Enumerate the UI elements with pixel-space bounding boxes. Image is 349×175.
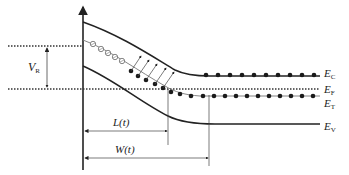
lt-label: L(t) [113,117,130,128]
empty-traps [90,41,124,63]
emission-arrows [131,56,174,88]
et-label-sub: T [331,103,335,111]
filled-traps-flat [178,92,316,99]
band-diagram [0,0,349,175]
ec-label-main: E [324,67,331,79]
ev-label-sub: V [331,126,336,134]
ev-label: EV [324,121,336,134]
vr-label-sub: R [35,67,40,75]
et-label-main: E [324,97,331,109]
conduction-band-curve [83,22,320,76]
vr-label: VR [28,61,40,75]
ef-label-main: E [324,83,331,95]
trap-level-curve [83,40,320,96]
ef-label: EF [324,84,335,97]
ef-label-sub: F [331,89,335,97]
et-label: ET [324,98,335,111]
ec-label-sub: C [331,73,336,81]
wt-label: W(t) [115,144,135,155]
ec-label: EC [324,68,335,81]
ev-label-main: E [324,120,331,132]
